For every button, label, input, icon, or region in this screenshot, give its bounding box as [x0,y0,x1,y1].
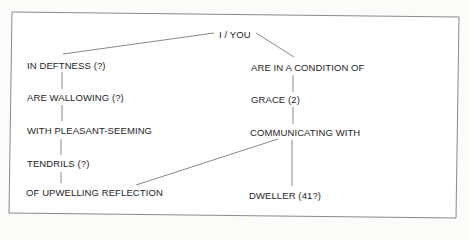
node-right-2: GRACE (2) [251,94,300,105]
node-left-4: TENDRILS (?) [27,158,89,169]
node-left-5: OF UPWELLING REFLECTION [26,187,163,198]
node-left-1: IN DEFTNESS (?) [27,60,106,71]
node-right-4: DWELLER (41?) [249,190,321,201]
node-right-1: ARE IN A CONDITION OF [251,62,364,73]
node-left-3: WITH PLEASANT-SEEMING [27,125,152,136]
node-left-2: ARE WALLOWING (?) [27,92,124,103]
node-root: I / YOU [219,29,251,40]
node-right-3: COMMUNICATING WITH [250,127,360,138]
